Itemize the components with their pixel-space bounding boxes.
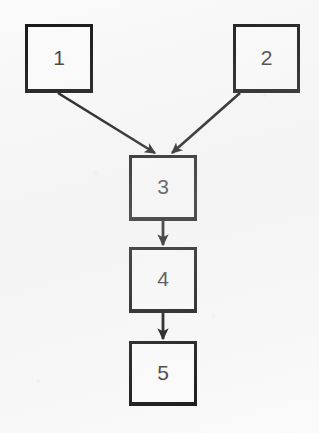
node-label: 2 <box>261 47 273 68</box>
flowchart-diagram: 1 2 3 4 5 <box>0 0 319 433</box>
node-label: 1 <box>53 47 65 68</box>
node-label: 5 <box>157 362 169 383</box>
edge-1-to-3 <box>58 93 155 153</box>
edge-2-to-3 <box>172 93 240 153</box>
node-label: 3 <box>157 176 169 197</box>
node-label: 4 <box>157 268 169 289</box>
flowchart-node-5: 5 <box>129 341 197 406</box>
flowchart-node-2: 2 <box>233 24 300 93</box>
flowchart-node-3: 3 <box>129 155 197 221</box>
flowchart-node-4: 4 <box>129 247 197 313</box>
flowchart-node-1: 1 <box>25 24 93 93</box>
